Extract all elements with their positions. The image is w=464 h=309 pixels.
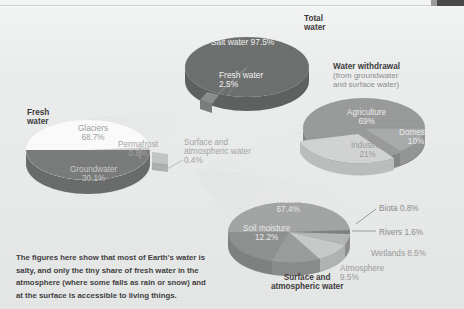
slice-label-glaciers: Glaciers 68.7% (78, 124, 108, 142)
slice-label-groundwater: Groundwater 30.1% (70, 165, 117, 183)
slice-label-salt-water: Salt water 97.5% (211, 38, 274, 47)
slice-label-permafrost: Permafrost 0.8% (118, 140, 158, 158)
slice-label-wetlands: Wetlands 8.5% (371, 249, 426, 258)
surface-atmospheric-title: Surface and atmospheric water (271, 273, 343, 291)
slice-label-agriculture: Agriculture 69% (347, 108, 386, 126)
figure-page: Total water Salt water 97.5% Fresh water… (0, 0, 464, 309)
slice-label-rivers: Rivers 1.6% (379, 228, 423, 237)
slice-label-biota: Biota 0.8% (379, 204, 419, 213)
slice-label-soil-moisture: Soil moisture 12.2% (243, 224, 290, 242)
total-water-title: Total water (304, 14, 325, 32)
slice-label-atmosphere: Atmosphere 9.5% (340, 264, 384, 282)
withdrawal-subtitle: (from groundwater and surface water) (333, 72, 399, 90)
biota-leader-line (356, 209, 376, 224)
fresh-water-title: Fresh water (27, 108, 49, 126)
slice-label-freshwater-lakes: Freshwater lakes 67.4% (257, 196, 319, 214)
slice-label-industrial: Industrial 21% (351, 141, 384, 159)
slice-label-domestic: Domestic 10% (399, 128, 433, 146)
withdrawal-title: Water withdrawal (333, 62, 400, 71)
figure-caption: The figures here show that most of Earth… (16, 252, 234, 303)
slice-label-fresh-water: Fresh water 2.5% (219, 71, 263, 90)
slice-label-surface-atmospheric: Surface and atmospheric water 0.4% (184, 138, 251, 166)
